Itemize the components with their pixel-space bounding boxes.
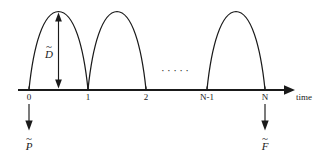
face-value-symbol: F (262, 141, 269, 151)
tick-label-1: 1 (86, 93, 91, 102)
amplitude-label: ~ D (45, 44, 53, 59)
ellipsis-dots: ····· (161, 64, 191, 76)
tick-label-0: 0 (27, 93, 32, 102)
amplitude-symbol: D (45, 49, 53, 59)
figure-canvas: ····· ~ D 0 1 2 N-1 N time ~ P ~ F (0, 0, 328, 157)
time-axis-line (18, 85, 295, 95)
tick-label-n: N (262, 93, 269, 102)
time-axis-label: time (296, 93, 312, 102)
payment-arrow-down (25, 104, 32, 131)
tick-label-2: 2 (144, 93, 149, 102)
amplitude-arrow (55, 13, 62, 89)
payment-label: ~ P (26, 136, 33, 151)
payment-symbol: P (26, 141, 33, 151)
tick-label-n-minus-1: N-1 (200, 93, 214, 102)
figure-svg (0, 0, 328, 157)
face-value-label: ~ F (262, 136, 269, 151)
face-value-arrow-down (261, 104, 268, 131)
arch-curves (29, 12, 265, 90)
arch-curve-1-2 (88, 12, 146, 90)
arch-curve-N1-N (207, 12, 265, 90)
